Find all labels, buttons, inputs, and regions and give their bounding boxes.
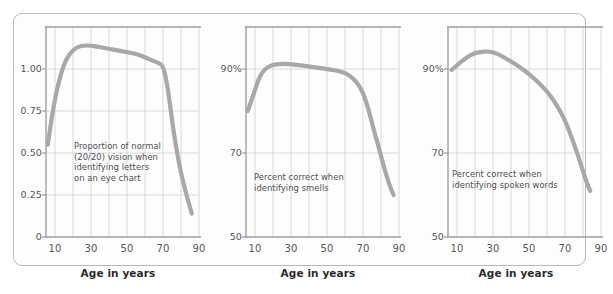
- plot-svg-smell: [213, 13, 413, 266]
- xaxis-title-speech: Age in years: [431, 267, 601, 279]
- axes-smell: [242, 27, 401, 237]
- xtick-label-speech: 70: [550, 243, 580, 254]
- chart-panel-smell: Percent correct when identifying smells …: [213, 13, 413, 266]
- xtick-label-smell: 70: [348, 243, 378, 254]
- ytick-label-smell: 70: [202, 147, 242, 158]
- ytick-label-vision: 0.75: [2, 105, 42, 116]
- ytick-label-speech: 50: [404, 231, 444, 242]
- xtick-label-vision: 30: [76, 243, 106, 254]
- xtick-label-smell: 90: [384, 243, 414, 254]
- ytick-label-vision: 0.50: [2, 147, 42, 158]
- annotation-smell: Percent correct when identifying smells: [254, 172, 374, 193]
- plot-svg-speech: [413, 13, 613, 266]
- xtick-label-speech: 50: [514, 243, 544, 254]
- xtick-label-speech: 10: [442, 243, 472, 254]
- ytick-label-smell: 50: [202, 231, 242, 242]
- ytick-label-smell: 90%: [202, 63, 242, 74]
- figure-container: Proportion of normal (20/20) vision when…: [0, 0, 613, 294]
- ytick-label-vision: 0: [2, 231, 42, 242]
- xtick-label-vision: 90: [184, 243, 214, 254]
- xtick-label-smell: 30: [276, 243, 306, 254]
- ytick-label-speech: 90%: [404, 63, 444, 74]
- xaxis-title-smell: Age in years: [233, 267, 403, 279]
- data-curve-vision: [48, 45, 192, 213]
- xtick-label-speech: 90: [586, 243, 613, 254]
- chart-panel-speech: Percent correct when identifying spoken …: [413, 13, 613, 266]
- annotation-vision: Proportion of normal (20/20) vision when…: [74, 141, 184, 183]
- ytick-label-speech: 70: [404, 147, 444, 158]
- xtick-label-speech: 30: [478, 243, 508, 254]
- annotation-speech: Percent correct when identifying spoken …: [452, 169, 587, 190]
- xtick-label-smell: 50: [312, 243, 342, 254]
- xtick-label-vision: 50: [112, 243, 142, 254]
- xtick-label-smell: 10: [240, 243, 270, 254]
- ytick-label-vision: 1.00: [2, 63, 42, 74]
- ytick-label-vision: 0.25: [2, 189, 42, 200]
- xtick-label-vision: 70: [148, 243, 178, 254]
- plot-svg-vision: [13, 13, 213, 266]
- xaxis-title-vision: Age in years: [33, 267, 203, 279]
- xtick-label-vision: 10: [40, 243, 70, 254]
- gridlines-speech: [448, 27, 601, 237]
- chart-panel-vision: Proportion of normal (20/20) vision when…: [13, 13, 213, 266]
